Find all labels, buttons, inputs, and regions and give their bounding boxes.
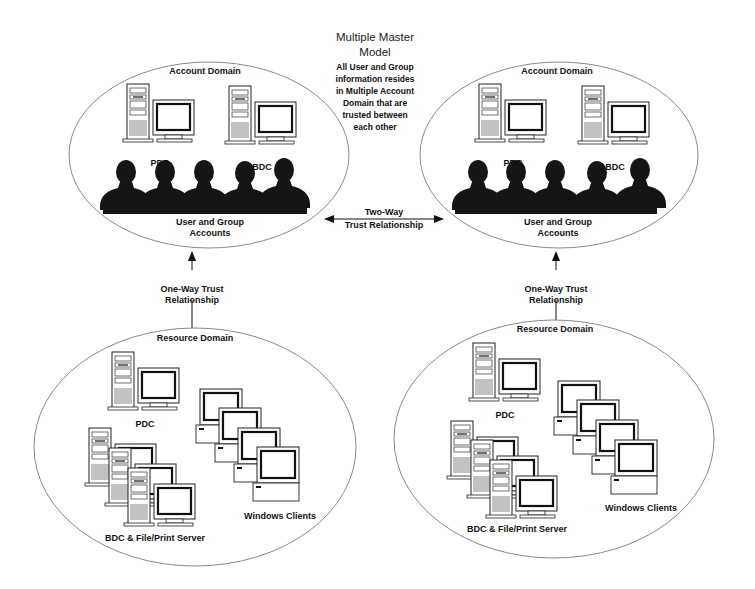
model-description: All User and Group information resides i… bbox=[315, 61, 435, 133]
windows-clients-icon bbox=[554, 381, 657, 494]
bdc-file-print-server-label: BDC & File/Print Server bbox=[457, 524, 577, 535]
two-way-trust-label: Two-Way Trust Relationship bbox=[324, 206, 444, 232]
resource-domain-label: Resource Domain bbox=[500, 324, 610, 335]
bdc-server-icon bbox=[225, 86, 296, 144]
pdc-label: PDC bbox=[140, 158, 180, 169]
diagram-title: Multiple Master Model bbox=[325, 30, 425, 60]
pdc-server-icon bbox=[469, 343, 540, 401]
resource-domain-left bbox=[34, 328, 356, 566]
bdc-label: BDC bbox=[242, 162, 282, 173]
windows-clients-label: Windows Clients bbox=[596, 503, 686, 514]
windows-clients-label: Windows Clients bbox=[235, 511, 325, 522]
pdc-server-icon bbox=[475, 84, 546, 142]
bdc-label: BDC bbox=[595, 162, 635, 173]
pdc-server-icon bbox=[108, 352, 179, 410]
one-way-trust-label: One-Way Trust Relationship bbox=[142, 284, 242, 306]
user-group-accounts-label: User and Group Accounts bbox=[150, 217, 270, 239]
pdc-label: PDC bbox=[493, 158, 533, 169]
bdc-file-print-servers-icon bbox=[85, 428, 195, 526]
resource-domain-right bbox=[394, 320, 714, 558]
pdc-label: PDC bbox=[485, 410, 525, 421]
bdc-file-print-servers-icon bbox=[447, 421, 557, 518]
windows-clients-icon bbox=[196, 389, 299, 501]
user-group-accounts-label: User and Group Accounts bbox=[498, 217, 618, 239]
resource-domain-label: Resource Domain bbox=[140, 333, 250, 344]
bdc-server-icon bbox=[578, 86, 649, 144]
account-domain-label: Account Domain bbox=[497, 66, 617, 77]
pdc-server-icon bbox=[123, 84, 194, 142]
one-way-trust-label: One-Way Trust Relationship bbox=[506, 284, 606, 306]
bdc-file-print-server-label: BDC & File/Print Server bbox=[95, 533, 215, 544]
account-domain-label: Account Domain bbox=[145, 66, 265, 77]
pdc-label: PDC bbox=[125, 419, 165, 430]
